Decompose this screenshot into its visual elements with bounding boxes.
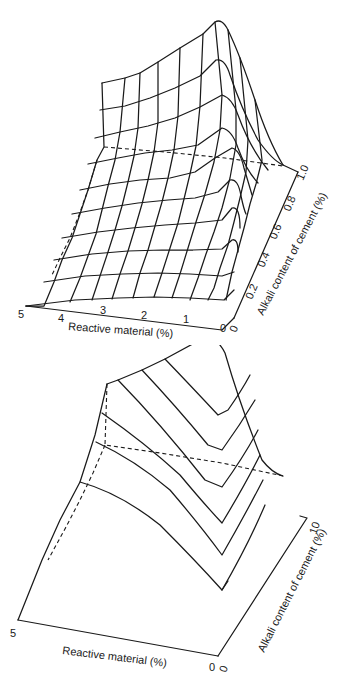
x-tick-0: 0 <box>220 322 226 334</box>
alkali-grid-lines <box>26 21 283 306</box>
y-tick-0-8: 0.8 <box>281 194 298 213</box>
x-tick-4: 4 <box>58 312 64 324</box>
x-tick-0: 0 <box>209 661 215 673</box>
wireframe-surface-chart: 5 4 3 2 1 0 Reactive material (%) 0 0.2 … <box>0 0 347 345</box>
y-tick-0-6: 0.6 <box>267 222 284 241</box>
x-tick-3: 3 <box>100 304 106 316</box>
reactive-grid-lines <box>26 22 262 306</box>
y-tick-0-4: 0.4 <box>255 250 272 269</box>
x-tick-2: 2 <box>141 309 147 321</box>
surface-ridge <box>107 345 283 476</box>
contour-surface-chart: 5 0 0 10 Reactive material (%) Alkali co… <box>0 345 347 698</box>
x-tick-5: 5 <box>18 308 24 320</box>
y-axis-label: Alkali content of cement (%) <box>255 526 328 653</box>
contour-surface-plot: 5 0 0 10 Reactive material (%) Alkali co… <box>0 345 347 698</box>
x-axis-label: Reactive material (%) <box>62 644 168 669</box>
x-axis-label: Reactive material (%) <box>68 320 174 339</box>
y-tick-0: 0 <box>217 664 230 674</box>
y-tick-1-0: 1.0 <box>294 163 311 182</box>
x-tick-5: 5 <box>10 627 16 639</box>
x-tick-1: 1 <box>183 313 189 325</box>
y-tick-0-2: 0.2 <box>243 282 260 301</box>
y-tick-0: 0 <box>227 323 240 333</box>
axis-frame <box>18 384 307 656</box>
wireframe-surface-plot: 5 4 3 2 1 0 Reactive material (%) 0 0.2 … <box>0 0 347 345</box>
